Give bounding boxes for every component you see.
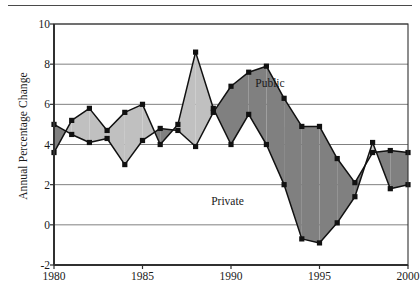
series-annotation-public: Public <box>255 77 284 89</box>
plot-area <box>0 0 420 299</box>
series-annotation-private: Private <box>211 195 244 207</box>
chart-figure: Annual Percentage Change 10 8 6 4 2 0 -2… <box>0 0 420 299</box>
series-markers <box>51 50 410 246</box>
series-lines <box>54 52 408 243</box>
series-fill-bands <box>54 52 408 243</box>
